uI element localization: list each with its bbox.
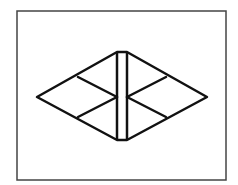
- inner-line-3: [127, 77, 166, 97]
- inner-line-2: [78, 97, 117, 117]
- inner-cross-lines: [78, 77, 166, 117]
- border-rectangle: [17, 11, 226, 180]
- diamond-outline: [37, 52, 207, 140]
- inner-line-4: [127, 97, 166, 117]
- inner-line-1: [78, 77, 117, 97]
- diamond-diagram: [0, 0, 238, 185]
- figure-frame: [0, 0, 238, 185]
